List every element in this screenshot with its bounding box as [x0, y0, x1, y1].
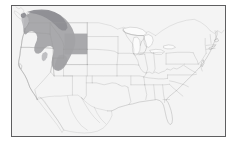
- map-frame: [11, 5, 226, 137]
- range-block-wyoming: [65, 34, 88, 55]
- map-canvas: [12, 6, 225, 136]
- distribution-map-figure: [0, 0, 239, 150]
